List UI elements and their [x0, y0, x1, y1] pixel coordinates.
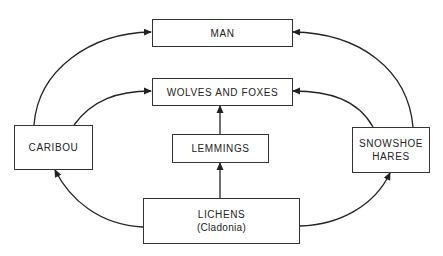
node-label-line1: LICHENS — [198, 208, 246, 221]
node-caribou: CARIBOU — [14, 125, 93, 170]
node-label-line1: SNOWSHOE — [359, 137, 423, 150]
node-lichens: LICHENS (Cladonia) — [143, 198, 300, 244]
node-label: WOLVES AND FOXES — [167, 86, 279, 99]
node-label: MAN — [210, 27, 234, 40]
arrow-caribou-to-wolves — [74, 91, 151, 125]
arrow-caribou-to-man — [34, 32, 151, 125]
node-label-line2: (Cladonia) — [197, 221, 246, 234]
arrow-hares-to-wolves — [293, 91, 373, 127]
arrow-lichens-to-caribou — [55, 170, 143, 227]
node-lemmings: LEMMINGS — [172, 134, 269, 163]
arrow-hares-to-man — [293, 32, 413, 127]
node-wolves-and-foxes: WOLVES AND FOXES — [152, 78, 293, 106]
node-label: LEMMINGS — [191, 142, 249, 155]
node-label: CARIBOU — [29, 141, 79, 154]
node-man: MAN — [152, 19, 293, 47]
node-snowshoe-hares: SNOWSHOE HARES — [352, 127, 430, 173]
arrow-lichens-to-hares — [300, 173, 390, 226]
node-label-line2: HARES — [372, 150, 409, 163]
